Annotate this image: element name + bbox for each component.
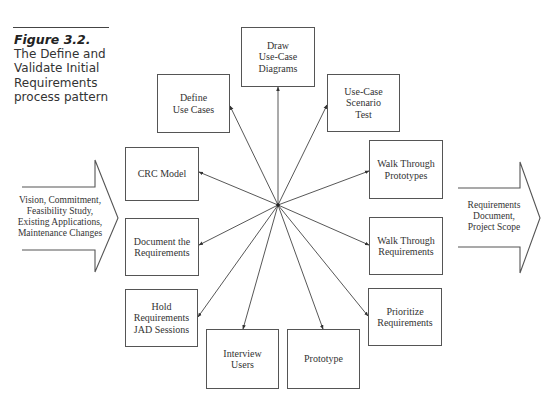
- activity-label: Prototype: [304, 353, 343, 365]
- arrow-to-interview-users: [243, 205, 278, 329]
- arrow-to-prioritize-requirements: [278, 205, 368, 316]
- activity-label: Define Use Cases: [173, 92, 214, 115]
- activity-label: Walk Through Prototypes: [377, 158, 435, 181]
- activity-label: Document the Requirements: [134, 236, 190, 259]
- activity-prioritize-requirements: Prioritize Requirements: [368, 288, 442, 346]
- activity-label: Draw Use-Case Diagrams: [259, 40, 298, 75]
- arrow-to-hold-requirements-jad-sessions: [198, 205, 278, 317]
- activity-prototype: Prototype: [287, 329, 360, 389]
- activity-crc-model: CRC Model: [125, 147, 199, 201]
- arrow-to-prototype: [278, 205, 323, 329]
- activity-label: Prioritize Requirements: [377, 306, 433, 329]
- activity-label: Walk Through Requirements: [377, 235, 435, 258]
- input-text: Vision, Commitment, Feasibility Study, E…: [0, 195, 120, 239]
- hub-point: [276, 203, 280, 207]
- arrow-to-walk-through-requirements: [278, 205, 369, 245]
- activity-label: Interview Users: [223, 348, 261, 371]
- activity-label: CRC Model: [138, 168, 187, 180]
- activity-walk-through-requirements: Walk Through Requirements: [369, 217, 443, 275]
- output-text: Requirements Document, Project Scope: [452, 200, 536, 233]
- arrow-to-document-the-requirements: [199, 205, 278, 245]
- arrow-to-use-case-scenario-test: [278, 105, 327, 205]
- arrow-to-walk-through-prototypes: [278, 171, 369, 205]
- activity-label: Use-Case Scenario Test: [344, 86, 382, 121]
- activity-draw-use-case-diagrams: Draw Use-Case Diagrams: [241, 27, 315, 87]
- activity-define-use-cases: Define Use Cases: [157, 74, 230, 133]
- activity-interview-users: Interview Users: [206, 329, 279, 389]
- arrow-to-define-use-cases: [230, 106, 278, 205]
- activity-walk-through-prototypes: Walk Through Prototypes: [369, 140, 443, 199]
- arrow-to-crc-model: [199, 172, 278, 205]
- activity-use-case-scenario-test: Use-Case Scenario Test: [327, 74, 400, 132]
- activity-document-the-requirements: Document the Requirements: [125, 218, 199, 276]
- activity-label: Hold Requirements JAD Sessions: [134, 301, 190, 336]
- activity-hold-requirements-jad-sessions: Hold Requirements JAD Sessions: [125, 289, 198, 347]
